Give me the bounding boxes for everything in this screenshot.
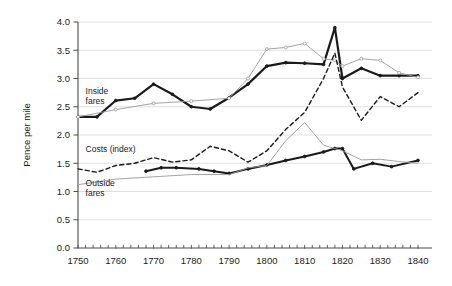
series-annotation: fares xyxy=(86,96,105,106)
data-point-marker xyxy=(417,76,420,79)
data-point-marker xyxy=(333,26,336,29)
data-point-marker xyxy=(265,48,268,51)
data-point-marker xyxy=(303,62,306,65)
y-tick-label: 0.0 xyxy=(57,242,70,253)
chart-figure: 1750176017701780179018001810182018301840… xyxy=(0,0,452,286)
data-point-marker xyxy=(417,159,420,162)
y-tick-label: 1.0 xyxy=(57,186,70,197)
x-tick-label: 1760 xyxy=(105,255,126,266)
series-annotation: fares xyxy=(86,188,105,198)
data-point-marker xyxy=(228,97,231,100)
line-chart: 1750176017701780179018001810182018301840… xyxy=(0,0,452,286)
data-point-marker xyxy=(265,65,268,68)
data-point-marker xyxy=(114,108,117,111)
x-tick-label: 1820 xyxy=(332,255,353,266)
data-point-marker xyxy=(360,57,363,60)
x-tick-label: 1810 xyxy=(294,255,315,266)
y-tick-label: 3.0 xyxy=(57,73,70,84)
data-point-marker xyxy=(114,99,117,102)
data-point-marker xyxy=(341,77,344,80)
y-axis-title: Pence per mile xyxy=(21,103,32,166)
y-tick-label: 2.0 xyxy=(57,129,70,140)
x-tick-label: 1790 xyxy=(219,255,240,266)
data-point-marker xyxy=(390,165,393,168)
data-point-marker xyxy=(247,83,250,86)
data-point-marker xyxy=(171,93,174,96)
series-annotation: Costs (index) xyxy=(86,144,136,154)
data-point-marker xyxy=(95,116,98,119)
data-point-marker xyxy=(133,97,136,100)
x-tick-label: 1800 xyxy=(256,255,277,266)
data-point-marker xyxy=(145,170,148,173)
data-point-marker xyxy=(190,100,193,103)
data-point-marker xyxy=(284,159,287,162)
data-point-marker xyxy=(284,61,287,64)
data-point-marker xyxy=(209,108,212,111)
data-point-marker xyxy=(77,115,80,118)
data-point-marker xyxy=(341,147,344,150)
data-point-marker xyxy=(398,71,401,74)
data-point-marker xyxy=(303,42,306,45)
data-point-marker xyxy=(322,57,325,60)
data-point-marker xyxy=(322,63,325,66)
data-point-marker xyxy=(371,162,374,165)
data-point-marker xyxy=(152,102,155,105)
data-point-marker xyxy=(322,151,325,154)
data-point-marker xyxy=(160,166,163,169)
data-point-marker xyxy=(352,168,355,171)
y-tick-label: 3.5 xyxy=(57,45,70,56)
data-point-marker xyxy=(284,46,287,49)
y-tick-label: 4.0 xyxy=(57,16,70,27)
y-tick-label: 2.5 xyxy=(57,101,70,112)
x-tick-label: 1780 xyxy=(181,255,202,266)
x-tick-label: 1770 xyxy=(143,255,164,266)
x-tick-label: 1830 xyxy=(370,255,391,266)
data-point-marker xyxy=(379,59,382,62)
series-annotation: Outside xyxy=(86,178,116,188)
data-point-marker xyxy=(152,83,155,86)
x-tick-label: 1840 xyxy=(407,255,428,266)
data-point-marker xyxy=(190,105,193,108)
data-point-marker xyxy=(213,170,216,173)
data-point-marker xyxy=(379,74,382,77)
data-point-marker xyxy=(303,155,306,158)
data-point-marker xyxy=(360,67,363,70)
data-point-marker xyxy=(341,65,344,68)
x-tick-label: 1750 xyxy=(67,255,88,266)
data-point-marker xyxy=(175,166,178,169)
data-point-marker xyxy=(247,77,250,80)
y-axis-tick-labels: 0.00.51.01.52.02.53.03.54.0 xyxy=(57,16,70,253)
y-tick-label: 1.5 xyxy=(57,158,70,169)
data-point-marker xyxy=(197,168,200,171)
series-annotation: Inside xyxy=(86,86,109,96)
y-tick-label: 0.5 xyxy=(57,214,70,225)
